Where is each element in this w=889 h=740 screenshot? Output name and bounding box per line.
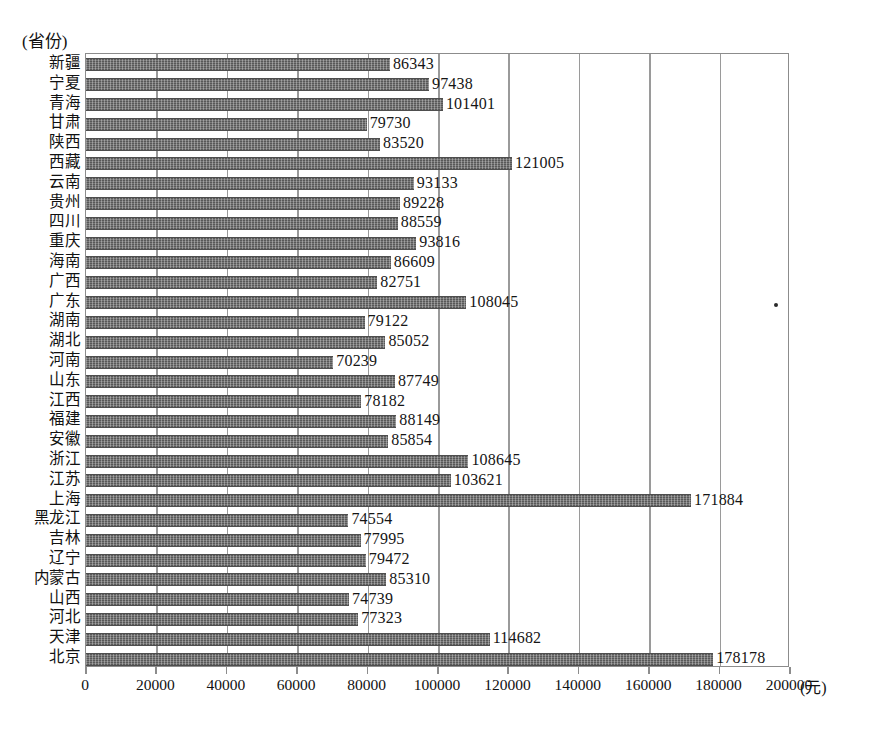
bar-value-label: 78182 (364, 392, 405, 410)
category-label: 安徽 (49, 431, 80, 447)
x-axis-tick-label: 160000 (625, 676, 672, 694)
bar-row: 114682 (86, 633, 788, 644)
category-label: 甘肃 (49, 115, 80, 131)
y-axis-caption: (省份) (22, 27, 67, 52)
bar[interactable] (86, 118, 367, 131)
bar[interactable] (86, 395, 361, 408)
bar-value-label: 108045 (469, 293, 518, 311)
category-label: 陕西 (49, 134, 80, 150)
x-axis-tick-label: 60000 (277, 676, 316, 694)
bar-value-label: 77995 (364, 530, 405, 548)
bar[interactable] (86, 157, 512, 170)
x-axis-tick (789, 667, 791, 674)
x-axis-tick-label: 80000 (347, 676, 386, 694)
x-axis-tick (296, 667, 298, 674)
x-axis-tick (367, 667, 369, 674)
bar-value-label: 121005 (515, 154, 564, 172)
x-axis-tick-label: 140000 (555, 676, 602, 694)
bar[interactable] (86, 256, 391, 269)
bar[interactable] (86, 653, 713, 666)
bar[interactable] (86, 514, 348, 527)
bar[interactable] (86, 474, 451, 487)
bar[interactable] (86, 415, 396, 428)
category-label: 海南 (49, 253, 80, 269)
category-label: 广西 (49, 273, 80, 289)
x-axis-tick-label: 40000 (206, 676, 245, 694)
bar-value-label: 93133 (417, 174, 458, 192)
bar[interactable] (86, 356, 333, 369)
bar[interactable] (86, 554, 366, 567)
category-label: 福建 (49, 412, 80, 428)
bar-row: 74739 (86, 593, 788, 604)
bar-value-label: 85310 (389, 570, 430, 588)
bar-value-label: 87749 (398, 372, 439, 390)
bar-series: 8634397438101401797308352012100593133892… (86, 54, 788, 666)
bar[interactable] (86, 573, 386, 586)
horizontal-bar-chart: (省份) 新疆宁夏青海甘肃陕西西藏云南贵州四川重庆海南广西广东湖南湖北河南山东江… (0, 0, 889, 740)
bar-value-label: 101401 (446, 95, 495, 113)
category-label: 河北 (49, 610, 80, 626)
bar[interactable] (86, 375, 395, 388)
bar[interactable] (86, 78, 429, 91)
category-label: 浙江 (49, 451, 80, 467)
category-label: 广东 (49, 293, 80, 309)
bar-row: 77323 (86, 613, 788, 624)
bar-row: 70239 (86, 356, 788, 367)
bar-value-label: 114682 (493, 629, 542, 647)
x-axis-tick (437, 667, 439, 674)
bar-row: 86343 (86, 58, 788, 69)
bar-row: 93816 (86, 237, 788, 248)
plot-area: 8634397438101401797308352012100593133892… (85, 53, 789, 667)
bar-row: 88149 (86, 415, 788, 426)
category-label: 天津 (49, 630, 80, 646)
category-label: 青海 (49, 95, 80, 111)
bar[interactable] (86, 98, 443, 111)
bar-value-label: 70239 (336, 352, 377, 370)
category-label: 吉林 (49, 531, 80, 547)
bar[interactable] (86, 613, 358, 626)
category-label: 河南 (49, 352, 80, 368)
bar-row: 97438 (86, 78, 788, 89)
bar[interactable] (86, 336, 385, 349)
bar[interactable] (86, 494, 691, 507)
bar[interactable] (86, 177, 414, 190)
x-axis-tick-label: 100000 (414, 676, 461, 694)
category-label: 江西 (49, 392, 80, 408)
x-axis-unit-label: (元) (800, 674, 827, 698)
bar[interactable] (86, 296, 466, 309)
category-label: 湖北 (49, 332, 80, 348)
bar[interactable] (86, 593, 349, 606)
bar-value-label: 93816 (419, 233, 460, 251)
bar[interactable] (86, 633, 490, 646)
bar-row: 86609 (86, 256, 788, 267)
bar-row: 89228 (86, 197, 788, 208)
bar[interactable] (86, 316, 365, 329)
bar-row: 78182 (86, 395, 788, 406)
bar[interactable] (86, 58, 390, 71)
bar[interactable] (86, 237, 416, 250)
bar[interactable] (86, 217, 398, 230)
bar-row: 79730 (86, 118, 788, 129)
bar-row: 88559 (86, 217, 788, 228)
bar-row: 85052 (86, 336, 788, 347)
bar[interactable] (86, 138, 380, 151)
category-label: 贵州 (49, 194, 80, 210)
category-label: 辽宁 (49, 550, 80, 566)
bar[interactable] (86, 435, 388, 448)
bar[interactable] (86, 534, 361, 547)
x-axis-tick-label: 0 (81, 676, 89, 694)
bar[interactable] (86, 455, 468, 468)
bar-value-label: 178178 (716, 649, 765, 667)
bar[interactable] (86, 197, 400, 210)
bar-row: 103621 (86, 474, 788, 485)
bar[interactable] (86, 276, 377, 289)
x-axis-tick-label: 20000 (136, 676, 175, 694)
bar-row: 108045 (86, 296, 788, 307)
bar-value-label: 77323 (361, 609, 402, 627)
bar-row: 108645 (86, 455, 788, 466)
bar-value-label: 88149 (399, 411, 440, 429)
bar-row: 171884 (86, 494, 788, 505)
x-axis-tick (648, 667, 650, 674)
bar-row: 79472 (86, 554, 788, 565)
bar-value-label: 83520 (383, 134, 424, 152)
